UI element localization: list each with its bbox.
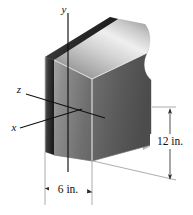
figure-drawing: y z x 12 in. [0, 0, 193, 215]
dimension-label-12in: 12 in. [157, 135, 183, 147]
axis-label-y: y [61, 3, 67, 15]
axis-label-z: z [16, 83, 22, 95]
dimension-label-6in: 6 in. [58, 183, 79, 195]
axis-label-x: x [11, 121, 17, 133]
extension-line-bottom-right [93, 161, 176, 180]
block-left-face [45, 57, 54, 155]
solid-block [45, 17, 152, 161]
figure-container: y z x 12 in. [0, 0, 193, 215]
